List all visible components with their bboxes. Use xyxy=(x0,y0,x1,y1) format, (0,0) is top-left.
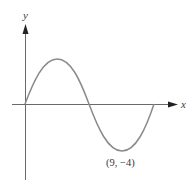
y-axis-label: y xyxy=(22,9,28,21)
sine-graph: y x (9, −4) xyxy=(0,0,192,185)
y-axis-arrow-icon xyxy=(23,24,29,34)
point-annotation: (9, −4) xyxy=(106,157,135,169)
x-axis-label: x xyxy=(180,98,186,110)
x-axis-arrow-icon xyxy=(168,102,178,108)
